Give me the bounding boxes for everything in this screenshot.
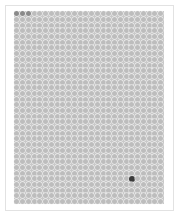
dot-circle-icon (49, 148, 54, 153)
dot-circle-icon (147, 23, 152, 28)
dot-circle-icon (118, 176, 123, 181)
grid-dot[interactable] (158, 199, 164, 205)
dot-circle-icon (152, 45, 157, 50)
dot-circle-icon (129, 148, 134, 153)
dot-circle-icon (78, 68, 83, 73)
dot-circle-icon (83, 11, 88, 16)
dot-circle-icon (141, 188, 146, 193)
dot-circle-icon (78, 131, 83, 136)
dot-circle-icon (112, 131, 117, 136)
dot-circle-icon (26, 85, 31, 90)
dot-circle-icon (135, 11, 140, 16)
dot-circle-icon (55, 114, 60, 119)
dot-circle-icon (129, 188, 134, 193)
dot-circle-icon (118, 154, 123, 159)
dot-circle-icon (101, 148, 106, 153)
dot-circle-icon (147, 188, 152, 193)
dot-circle-icon (43, 182, 48, 187)
dot-circle-icon (141, 176, 146, 181)
dot-circle-icon (124, 131, 129, 136)
dot-circle-icon (89, 91, 94, 96)
dot-circle-icon (95, 142, 100, 147)
dot-circle-icon (32, 193, 37, 198)
dot-circle-icon (60, 17, 65, 22)
dot-circle-icon (106, 182, 111, 187)
dot-circle-icon (14, 91, 19, 96)
dot-circle-icon (78, 102, 83, 107)
dot-circle-icon (26, 131, 31, 136)
dot-circle-icon (78, 28, 83, 33)
dot-circle-icon (95, 57, 100, 62)
dot-circle-icon (89, 68, 94, 73)
dot-circle-icon (141, 11, 146, 16)
dot-circle-icon (43, 102, 48, 107)
dot-circle-icon (78, 40, 83, 45)
dot-circle-icon (106, 136, 111, 141)
dot-circle-icon (124, 108, 129, 113)
dot-circle-icon (101, 108, 106, 113)
dot-circle-icon (147, 68, 152, 73)
dot-circle-icon (43, 34, 48, 39)
dot-circle-icon (14, 51, 19, 56)
dot-circle-icon (55, 57, 60, 62)
dot-circle-icon (43, 57, 48, 62)
dot-circle-icon (147, 182, 152, 187)
dot-circle-icon (72, 171, 77, 176)
dot-circle-icon (147, 57, 152, 62)
dot-circle-icon (101, 176, 106, 181)
dot-circle-icon (118, 63, 123, 68)
dot-circle-icon (32, 125, 37, 130)
dot-circle-icon (60, 148, 65, 153)
dot-circle-icon (118, 74, 123, 79)
dot-circle-icon (152, 125, 157, 130)
dot-circle-icon (158, 171, 163, 176)
dot-circle-icon (20, 188, 25, 193)
dot-circle-icon (129, 154, 134, 159)
dot-circle-icon (141, 182, 146, 187)
dot-circle-icon (83, 17, 88, 22)
dot-circle-icon (32, 68, 37, 73)
dot-circle-icon (106, 165, 111, 170)
dot-circle-icon (32, 159, 37, 164)
dot-circle-icon (55, 74, 60, 79)
dot-circle-icon (55, 85, 60, 90)
dot-circle-icon (152, 154, 157, 159)
dot-circle-icon (20, 51, 25, 56)
dot-circle-icon (89, 80, 94, 85)
dot-circle-icon (101, 159, 106, 164)
dot-circle-icon (147, 125, 152, 130)
dot-circle-icon (55, 102, 60, 107)
dot-circle-icon (124, 57, 129, 62)
dot-circle-icon (147, 154, 152, 159)
dot-circle-icon (147, 45, 152, 50)
dot-circle-icon (78, 23, 83, 28)
dot-circle-icon (37, 193, 42, 198)
dot-circle-icon (60, 188, 65, 193)
dot-circle-icon (49, 68, 54, 73)
dot-circle-icon (49, 188, 54, 193)
dot-circle-icon (83, 102, 88, 107)
dot-circle-icon (112, 199, 117, 204)
dot-circle-icon (72, 17, 77, 22)
dot-circle-icon (106, 125, 111, 130)
dot-circle-icon (72, 97, 77, 102)
dot-circle-icon (78, 74, 83, 79)
dot-circle-icon (49, 165, 54, 170)
dot-circle-icon (72, 63, 77, 68)
dot-circle-icon (66, 125, 71, 130)
dot-circle-icon (72, 91, 77, 96)
dot-circle-icon (129, 85, 134, 90)
dot-circle-icon (26, 154, 31, 159)
dot-circle-icon (124, 40, 129, 45)
dot-circle-icon (55, 11, 60, 16)
dot-circle-icon (152, 119, 157, 124)
dot-circle-icon (101, 74, 106, 79)
dot-circle-icon (14, 108, 19, 113)
dot-circle-icon (72, 182, 77, 187)
dot-circle-icon (83, 68, 88, 73)
dot-circle-icon (124, 11, 129, 16)
dot-circle-icon (112, 125, 117, 130)
dot-circle-icon (89, 188, 94, 193)
dot-circle-icon (83, 125, 88, 130)
dot-circle-icon (124, 142, 129, 147)
